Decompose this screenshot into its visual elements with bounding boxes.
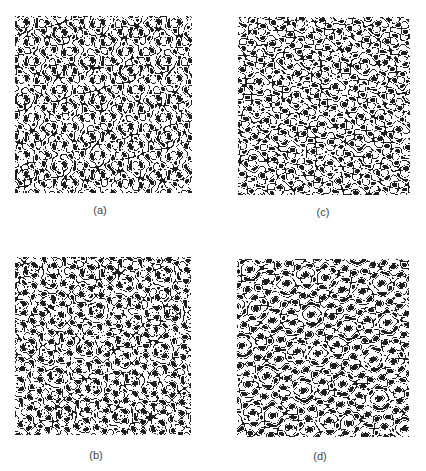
panel-label-b: (b): [66, 449, 126, 461]
panel-label-d: (d): [290, 450, 350, 462]
pattern-image-c: [238, 17, 410, 195]
pattern-image-b: [15, 257, 191, 435]
panel-label-a: (a): [70, 204, 130, 216]
pattern-image-a: [15, 16, 192, 193]
pattern-image-d: [237, 259, 409, 437]
panel-label-c: (c): [293, 206, 353, 218]
figure: (a) (c) (b) (d): [0, 0, 426, 471]
